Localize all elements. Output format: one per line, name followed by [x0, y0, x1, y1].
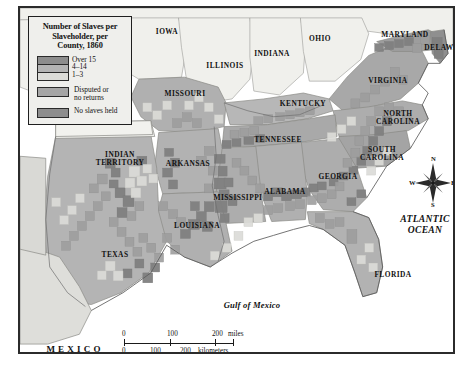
legend-title-line-1: Number of Slaves per [34, 22, 126, 32]
compass-label-south: S [431, 201, 435, 208]
legend-label-disputed-line-2: no returns [74, 94, 109, 102]
legend-swatch-noslaves [37, 108, 69, 118]
compass-label-east: E [451, 179, 453, 186]
scale-km-tick-0: 0 [122, 347, 126, 352]
scale-miles-tick-200: 200 [212, 330, 223, 338]
scale-miles-tick-100: 100 [167, 330, 178, 338]
map-canvas: Number of Slaves per Slaveholder, per Co… [20, 8, 453, 352]
legend-swatch-4to14 [38, 65, 68, 73]
scale-bar: 0 100 200 miles 0 100 200 kilometers [124, 330, 234, 352]
legend-swatch-disputed [37, 87, 69, 97]
scale-miles-tick-0: 0 [122, 330, 126, 338]
compass-label-north: N [431, 155, 436, 162]
legend-row-noslaves: No slaves held [34, 107, 126, 118]
scale-km-tick-200: 200 [180, 347, 191, 352]
legend-swatch-over15 [38, 57, 68, 65]
scale-km-unit: kilometers [198, 347, 228, 352]
map-page: Number of Slaves per Slaveholder, per Co… [0, 0, 467, 382]
scale-miles-labels: 0 100 200 miles [124, 330, 234, 339]
map-frame: Number of Slaves per Slaveholder, per Co… [18, 6, 455, 354]
legend-title-line-2: Slaveholder, per [34, 32, 126, 42]
legend-graduated-labels: Over 15 4–14 1–3 [72, 56, 126, 79]
legend-row-disputed: Disputed or no returns [34, 86, 126, 102]
scale-bar-graphic [124, 339, 234, 346]
scale-km-labels: 0 100 200 kilometers [124, 347, 234, 352]
scale-miles-unit: miles [228, 330, 244, 338]
legend-label-noslaves: No slaves held [74, 107, 118, 115]
scale-km-tick-100: 100 [150, 347, 161, 352]
legend-title-line-3: County, 1860 [34, 41, 126, 51]
legend-label-noslaves-line-1: No slaves held [74, 107, 118, 115]
legend-label-disputed: Disputed or no returns [74, 86, 109, 102]
legend-title: Number of Slaves per Slaveholder, per Co… [34, 22, 126, 51]
legend-graduated-group: Over 15 4–14 1–3 [34, 56, 126, 81]
legend-graduated-swatches [37, 56, 69, 81]
map-legend: Number of Slaves per Slaveholder, per Co… [28, 16, 132, 125]
compass-label-west: W [409, 179, 416, 186]
legend-swatch-1to3 [38, 73, 68, 80]
legend-label-1to3: 1–3 [72, 71, 126, 79]
compass-rose: N E S W [408, 156, 453, 208]
